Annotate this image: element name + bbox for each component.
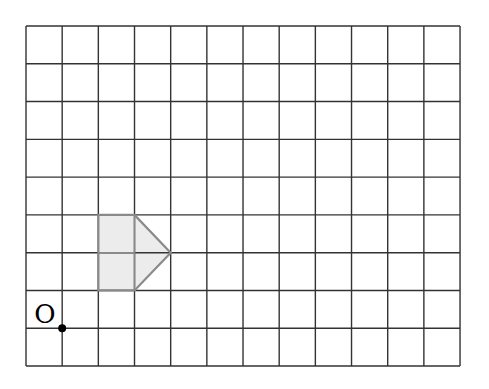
- square-grid: [26, 26, 460, 366]
- origin-dot: [58, 324, 66, 332]
- origin-point: O: [34, 299, 66, 332]
- grid-diagram: O: [0, 0, 489, 389]
- origin-label: O: [34, 299, 55, 329]
